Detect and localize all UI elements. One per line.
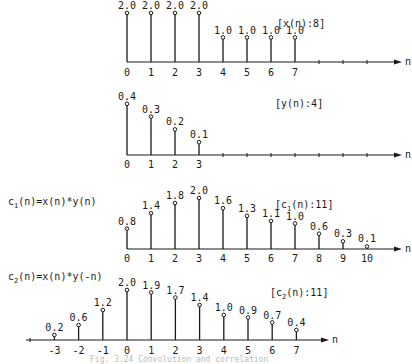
plot-c1-formula: c1(n)=x(n)*y(n) — [8, 196, 97, 210]
stem-marker-icon — [245, 214, 249, 218]
tick-label: 2 — [172, 159, 178, 170]
plot-c2-tag: [c2(n):11] — [270, 287, 328, 301]
tick-label: 7 — [292, 67, 298, 78]
stem-value-label: 1.6 — [214, 195, 232, 206]
stem-marker-icon — [293, 222, 297, 226]
tick-label: 3 — [196, 253, 202, 264]
axis-label-n: n — [405, 149, 411, 160]
stem-marker-icon — [293, 36, 297, 40]
tick-label: 9 — [340, 253, 346, 264]
tick-label: 5 — [244, 253, 250, 264]
stem-marker-icon — [125, 102, 129, 106]
stem-marker-icon — [246, 316, 250, 320]
tick-label: -3 — [48, 345, 60, 356]
stem-value-label: 2.0 — [118, 0, 136, 11]
stem-marker-icon — [149, 11, 153, 15]
tick-label: 4 — [220, 67, 226, 78]
axis-arrow-icon — [394, 247, 402, 252]
tick-label: -2 — [73, 345, 85, 356]
stem-value-label: 0.1 — [190, 129, 208, 140]
stem-marker-icon — [197, 196, 201, 200]
stem-value-label: 0.9 — [239, 305, 257, 316]
stem-value-label: 1.8 — [166, 190, 184, 201]
tick-label: 1 — [148, 159, 154, 170]
stem-value-label: 0.7 — [263, 310, 281, 321]
stem-value-label: 0.6 — [310, 221, 328, 232]
tick-label: 7 — [293, 345, 299, 356]
tick-label: 10 — [361, 253, 373, 264]
tick-label: 2 — [172, 253, 178, 264]
stem-marker-icon — [173, 201, 177, 205]
plot-x-tag: [x(n):8] — [277, 18, 325, 29]
tick-label: 0 — [124, 67, 130, 78]
stem-marker-icon — [295, 328, 299, 332]
stem-marker-icon — [149, 291, 153, 295]
stem-value-label: 0.2 — [166, 116, 184, 127]
stem-value-label: 1.4 — [142, 200, 160, 211]
stem-marker-icon — [173, 11, 177, 15]
stem-marker-icon — [173, 128, 177, 132]
stem-marker-icon — [341, 240, 345, 244]
stem-marker-icon — [270, 321, 274, 325]
tick-label: 0 — [124, 253, 130, 264]
axis-label-n: n — [405, 56, 411, 67]
stem-value-label: 1.9 — [142, 280, 160, 291]
axis-label-n: n — [332, 334, 338, 345]
tick-label: 0 — [124, 159, 130, 170]
stem-marker-icon — [365, 245, 369, 249]
stem-value-label: 1.0 — [238, 25, 256, 36]
tick-label: 6 — [268, 67, 274, 78]
stem-value-label: 0.1 — [358, 233, 376, 244]
stem-marker-icon — [149, 212, 153, 216]
axis-arrow-icon — [321, 338, 329, 343]
tick-label: 1 — [148, 253, 154, 264]
stem-marker-icon — [125, 288, 129, 292]
plot-x: n2.002.012.022.031.041.051.061.07 — [118, 0, 411, 78]
tick-label: 3 — [196, 67, 202, 78]
tick-label: 4 — [220, 253, 226, 264]
stem-marker-icon — [125, 227, 129, 231]
tick-label: 1 — [148, 67, 154, 78]
tick-label: 7 — [292, 253, 298, 264]
stem-marker-icon — [101, 308, 105, 312]
stem-value-label: 2.0 — [190, 185, 208, 196]
stem-marker-icon — [125, 11, 129, 15]
stem-marker-icon — [174, 296, 178, 300]
stem-value-label: 1.3 — [238, 203, 256, 214]
stem-value-label: 2.0 — [142, 0, 160, 11]
plot-c2-formula: c2(n)=x(n)*y(-n) — [8, 271, 103, 285]
stem-value-label: 0.2 — [45, 322, 63, 333]
stem-marker-icon — [317, 232, 321, 236]
convolution-figure: n2.002.012.022.031.041.051.061.07 [x(n):… — [0, 0, 412, 364]
stem-marker-icon — [269, 219, 273, 223]
stem-value-label: 0.3 — [142, 104, 160, 115]
tick-label: 6 — [268, 253, 274, 264]
plot-c1-tag: [c1(n):11] — [275, 199, 333, 213]
tick-label: 3 — [196, 159, 202, 170]
axis-arrow-icon — [394, 153, 402, 158]
axis-arrow-icon — [394, 60, 402, 65]
axis-label-n: n — [405, 243, 411, 254]
stem-value-label: 1.0 — [215, 302, 233, 313]
stem-value-label: 0.4 — [118, 91, 136, 102]
stem-marker-icon — [222, 313, 226, 317]
stem-value-label: 0.3 — [334, 228, 352, 239]
stem-value-label: 2.0 — [166, 0, 184, 11]
plot-c1: n0.801.411.822.031.641.351.161.070.680.3… — [118, 185, 411, 264]
tick-label: 6 — [269, 345, 275, 356]
stem-marker-icon — [245, 36, 249, 40]
stem-marker-icon — [77, 323, 81, 327]
stem-marker-icon — [197, 11, 201, 15]
stem-value-label: 1.4 — [191, 292, 209, 303]
plot-y: n0.400.310.220.13 — [118, 91, 411, 170]
stem-marker-icon — [198, 303, 202, 307]
stem-value-label: 0.8 — [118, 216, 136, 227]
stem-marker-icon — [221, 206, 225, 210]
stem-value-label: 1.2 — [94, 297, 112, 308]
stem-value-label: 0.4 — [287, 317, 305, 328]
stem-marker-icon — [221, 36, 225, 40]
stem-value-label: 2.0 — [118, 277, 136, 288]
figure-caption: Fig. 3.24 Convolution and correlation — [90, 355, 268, 364]
stem-value-label: 0.6 — [70, 312, 88, 323]
stem-marker-icon — [197, 140, 201, 144]
